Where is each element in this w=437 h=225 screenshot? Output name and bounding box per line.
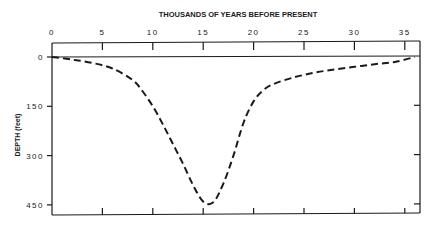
y-tick-label: 150: [26, 102, 44, 111]
right-y-ticks: [414, 105, 420, 204]
y-ticks: [47, 57, 52, 205]
x-tick-label: 30: [348, 28, 360, 37]
chart-title: THOUSANDS OF YEARS BEFORE PRESENT: [159, 10, 318, 19]
x-tick-label: 0: [49, 28, 55, 37]
x-tick-label: 5: [99, 28, 105, 37]
zero-depth-line: [52, 56, 420, 57]
y-axis-label: DEPTH (feet): [14, 114, 22, 157]
y-tick-label: 300: [26, 152, 44, 161]
x-tick-label: 35: [399, 28, 411, 37]
x-tick-label: 10: [147, 28, 159, 37]
x-tick-label: 15: [197, 28, 209, 37]
x-tick-label: 20: [248, 28, 260, 37]
y-tick-labels: 0150300450: [26, 53, 44, 210]
depth-curve: [52, 57, 415, 204]
x-tick-labels: 05101520253035: [49, 28, 411, 37]
x-tick-label: 25: [298, 28, 310, 37]
depth-chart: THOUSANDS OF YEARS BEFORE PRESENT 051015…: [0, 0, 437, 225]
y-tick-label: 450: [26, 201, 44, 210]
bottom-axis-line: [52, 213, 420, 215]
y-tick-label: 0: [38, 53, 44, 62]
top-axis-line: [52, 41, 420, 43]
